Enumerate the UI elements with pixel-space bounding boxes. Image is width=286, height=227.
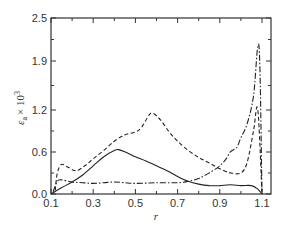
chart-svg: 0.10.30.50.70.91.1 0.00.61.21.92.5 r εa×…: [0, 0, 286, 227]
y-tick-label: 2.5: [32, 12, 47, 24]
x-axis-label: r: [154, 210, 159, 222]
x-axis: 0.10.30.50.70.91.1: [43, 18, 269, 209]
x-tick-label: 1.1: [254, 197, 269, 209]
y-axis-label: εa× 103: [13, 91, 29, 125]
series-line-dashed: [55, 107, 262, 194]
x-tick-label: 0.5: [128, 197, 143, 209]
x-tick-label: 0.3: [86, 197, 101, 209]
series-line-dash-dot: [53, 44, 262, 194]
x-tick-label: 0.9: [212, 197, 227, 209]
series-layer: [51, 44, 262, 194]
y-axis: 0.00.61.21.92.5: [32, 12, 271, 200]
y-tick-label: 0.0: [32, 188, 47, 200]
y-tick-label: 1.9: [32, 55, 47, 67]
y-tick-label: 0.6: [32, 146, 47, 158]
y-tick-label: 1.2: [32, 104, 47, 116]
x-tick-label: 0.7: [170, 197, 185, 209]
series-line-solid: [51, 149, 262, 194]
svg-text:εa× 103: εa× 103: [13, 91, 29, 125]
